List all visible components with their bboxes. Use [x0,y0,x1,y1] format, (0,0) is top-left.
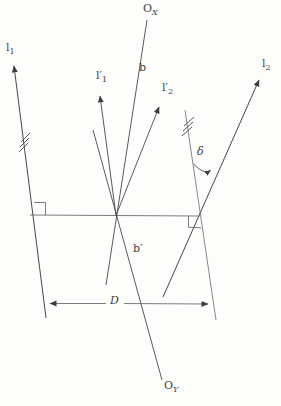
label-l1-sub: 1 [10,47,15,56]
label-b: b [139,62,146,73]
line-b-prime-origin-y [93,130,162,380]
parallel-tick-marks-reference [182,117,194,136]
label-l2-prime: l′2 [162,82,173,96]
label-b-prime: b′ [133,243,143,254]
label-l2: l2 [262,58,271,72]
line-l2-prime [116,107,159,216]
label-origin-y-sub: Y [173,385,178,394]
label-l2-sub: 2 [266,63,271,72]
delta-angle-arc [194,164,211,172]
label-origin-x-base: O [143,2,152,15]
label-origin-x: OX [143,3,158,17]
line-l2 [163,80,259,297]
figure-canvas: l1 l′1 OX b l′2 l2 δ b′ D OY [0,0,281,406]
label-origin-x-sub: X [152,8,158,17]
label-l1: l1 [6,42,15,56]
parallel-reference-line [185,110,216,320]
label-origin-y-base: O [164,379,173,392]
label-l2-prime-sub: 2 [168,87,173,96]
line-l1 [14,66,46,318]
label-l1-prime-sub: 1 [102,75,107,84]
label-distance-d: D [110,295,119,306]
label-delta: δ [197,146,204,157]
right-angle-mark-left [34,203,45,216]
label-origin-y: OY [164,380,178,394]
baseline [30,215,200,216]
line-l1-prime [100,96,116,216]
label-l1-prime: l′1 [96,70,107,84]
dimension-line-right [124,304,208,305]
